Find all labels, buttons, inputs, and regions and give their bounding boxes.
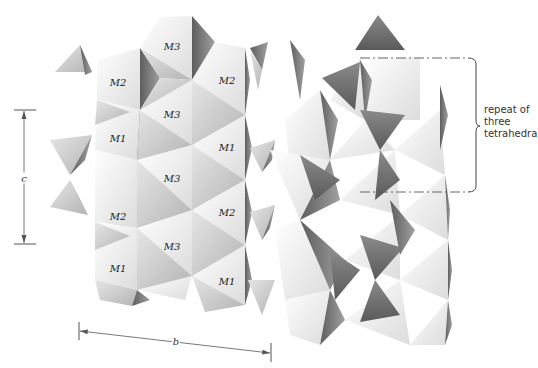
tetrahedra-left-edge (50, 45, 92, 215)
site-label-m1: M1 (110, 263, 127, 274)
site-label-m1: M1 (110, 133, 127, 144)
site-label-m2: M2 (219, 207, 236, 218)
site-label-m2: M2 (110, 211, 127, 222)
tetrahedra-middle (248, 42, 275, 315)
site-label-m1: M1 (219, 276, 236, 287)
polyhedra-drawing (0, 0, 538, 368)
site-label-m3: M3 (164, 241, 181, 252)
octahedral-layer-right (270, 40, 452, 345)
crystal-structure-diagram: M3 M2 M2 M3 M1 M1 M3 M2 M2 M3 M1 M1 c b … (0, 0, 538, 368)
site-label-m3: M3 (164, 41, 181, 52)
annotation-line: three (484, 116, 537, 128)
repeat-annotation: repeat of three tetrahedra (484, 104, 537, 140)
site-label-m2: M2 (219, 75, 236, 86)
site-label-m3: M3 (164, 109, 181, 120)
annotation-line: repeat of (484, 104, 537, 116)
c-axis-label: c (20, 173, 28, 184)
site-label-m1: M1 (219, 142, 236, 153)
site-label-m3: M3 (164, 173, 181, 184)
b-axis-label: b (172, 336, 180, 347)
annotation-line: tetrahedra (484, 128, 537, 140)
site-label-m2: M2 (110, 77, 127, 88)
